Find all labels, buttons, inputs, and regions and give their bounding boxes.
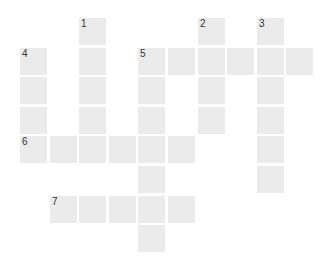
crossword-cell[interactable] [138,107,165,134]
crossword-cell[interactable] [79,77,106,104]
crossword-cell[interactable] [138,196,165,223]
crossword-cell[interactable]: 4 [20,48,47,75]
crossword-cell[interactable] [50,136,77,163]
clue-number: 7 [52,197,58,207]
crossword-cell[interactable]: 7 [50,196,77,223]
clue-number: 4 [22,49,28,59]
crossword-cell[interactable] [198,77,225,104]
crossword-cell[interactable] [257,166,284,193]
clue-number: 3 [259,19,265,29]
crossword-cell[interactable] [79,196,106,223]
crossword-cell[interactable] [20,77,47,104]
crossword-cell[interactable] [198,107,225,134]
crossword-cell[interactable] [109,136,136,163]
crossword-cell[interactable] [257,107,284,134]
crossword-cell[interactable] [168,136,195,163]
crossword-cell[interactable] [257,48,284,75]
crossword-cell[interactable]: 2 [198,18,225,45]
crossword-cell[interactable]: 1 [79,18,106,45]
crossword-cell[interactable]: 3 [257,18,284,45]
crossword-cell[interactable] [198,48,225,75]
crossword-cell[interactable] [109,196,136,223]
crossword-cell[interactable] [20,107,47,134]
crossword-grid: 1234567 [0,0,324,270]
crossword-cell[interactable]: 5 [138,48,165,75]
crossword-cell[interactable] [257,136,284,163]
crossword-cell[interactable] [138,136,165,163]
clue-number: 6 [22,137,28,147]
crossword-cell[interactable] [286,48,313,75]
crossword-cell[interactable] [138,77,165,104]
crossword-cell[interactable] [138,166,165,193]
crossword-cell[interactable] [227,48,254,75]
crossword-cell[interactable] [79,107,106,134]
clue-number: 5 [140,49,146,59]
clue-number: 1 [81,19,87,29]
clue-number: 2 [200,19,206,29]
crossword-cell[interactable] [79,48,106,75]
crossword-cell[interactable] [168,48,195,75]
crossword-cell[interactable] [257,77,284,104]
crossword-cell[interactable] [138,225,165,252]
crossword-cell[interactable] [79,136,106,163]
crossword-cell[interactable]: 6 [20,136,47,163]
crossword-cell[interactable] [168,196,195,223]
